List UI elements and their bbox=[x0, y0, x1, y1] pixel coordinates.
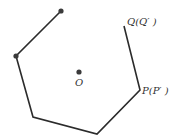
diagram-svg bbox=[0, 0, 188, 140]
vertex-point-top bbox=[58, 8, 63, 13]
label-p: P(P′ ) bbox=[142, 86, 169, 96]
vertex-point-left bbox=[13, 53, 18, 58]
center-point-o bbox=[76, 69, 81, 74]
geometry-diagram: O P(P′ ) Q(Q′ ) bbox=[0, 0, 188, 140]
label-q: Q(Q′ ) bbox=[127, 17, 157, 27]
label-o: O bbox=[75, 78, 83, 88]
